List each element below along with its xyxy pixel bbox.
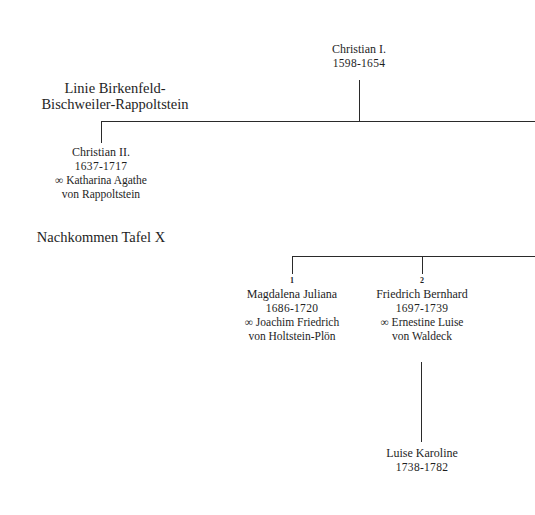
person-spouse: ∞ Katharina Agathe xyxy=(51,173,151,187)
descendants-note-text: Nachkommen Tafel X xyxy=(31,229,171,245)
person-spouse-house: von Waldeck xyxy=(362,329,482,343)
connector-line xyxy=(292,256,293,274)
person-dates: 1697-1739 xyxy=(362,301,482,315)
connector-line xyxy=(101,121,535,122)
person-friedrich-bernhard: 2 Friedrich Bernhard 1697-1739 ∞ Ernesti… xyxy=(362,275,482,343)
person-spouse: ∞ Ernestine Luise xyxy=(362,315,482,329)
connector-line xyxy=(421,362,422,442)
person-christian-ii: Christian II. 1637-1717 ∞ Katharina Agat… xyxy=(51,145,151,201)
line-title-1: Linie Birkenfeld- xyxy=(0,80,230,96)
connector-line xyxy=(292,256,535,257)
person-dates: 1686-1720 xyxy=(232,301,352,315)
connector-line xyxy=(359,80,360,121)
person-name: Christian II. xyxy=(51,145,151,159)
connector-line xyxy=(101,121,102,143)
person-christian-i: Christian I. 1598-1654 xyxy=(309,42,409,70)
person-luise-karoline: Luise Karoline 1738-1782 xyxy=(362,446,482,474)
connector-line xyxy=(422,256,423,274)
person-dates: 1637-1717 xyxy=(51,159,151,173)
person-spouse-house: von Rappoltstein xyxy=(51,187,151,201)
person-magdalena-juliana: 1 Magdalena Juliana 1686-1720 ∞ Joachim … xyxy=(232,275,352,343)
person-dates: 1738-1782 xyxy=(362,460,482,474)
line-title-2: Bischweiler-Rappoltstein xyxy=(0,96,230,112)
person-name: Magdalena Juliana xyxy=(232,287,352,301)
person-dates: 1598-1654 xyxy=(309,56,409,70)
person-name: Luise Karoline xyxy=(362,446,482,460)
person-name: Friedrich Bernhard xyxy=(362,287,482,301)
person-name: Christian I. xyxy=(309,42,409,56)
birth-order-number: 1 xyxy=(232,275,352,287)
birth-order-number: 2 xyxy=(362,275,482,287)
person-spouse: ∞ Joachim Friedrich xyxy=(232,315,352,329)
person-spouse-house: von Holtstein-Plön xyxy=(232,329,352,343)
descendants-note: Nachkommen Tafel X xyxy=(31,229,171,245)
line-title: Linie Birkenfeld- Bischweiler-Rappoltste… xyxy=(0,80,230,112)
